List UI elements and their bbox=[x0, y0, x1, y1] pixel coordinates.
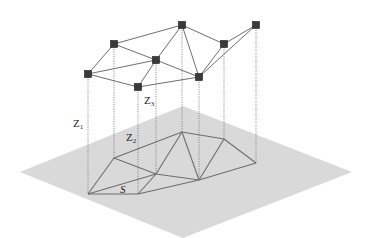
network-edge bbox=[138, 60, 156, 87]
network-edge bbox=[199, 44, 224, 77]
elevated-point-network bbox=[88, 25, 256, 87]
network-edge bbox=[114, 44, 156, 60]
sample-point-marker bbox=[179, 22, 186, 29]
label-z3-sub: 3 bbox=[151, 100, 155, 108]
label-z3: Z3 bbox=[144, 94, 155, 108]
sample-point-marker bbox=[196, 74, 203, 81]
sample-point-marker bbox=[153, 57, 160, 64]
tin-interpolation-diagram: Z1 Z2 Z3 S bbox=[0, 0, 367, 238]
network-edge bbox=[88, 74, 138, 87]
label-z1: Z1 bbox=[73, 117, 84, 131]
network-edge bbox=[199, 25, 256, 77]
sample-point-marker bbox=[221, 41, 228, 48]
label-z2-sub: 2 bbox=[133, 137, 137, 145]
network-edge bbox=[182, 25, 224, 44]
network-edge bbox=[224, 25, 256, 44]
sample-point-marker bbox=[253, 22, 260, 29]
network-edge bbox=[182, 25, 199, 77]
label-s-distance: S bbox=[120, 183, 126, 195]
ground-plane bbox=[20, 106, 352, 238]
network-edge bbox=[114, 25, 182, 44]
network-edge bbox=[156, 60, 199, 77]
network-edge bbox=[156, 25, 182, 60]
sample-point-marker bbox=[111, 41, 118, 48]
network-edge bbox=[138, 77, 199, 87]
sample-point-marker bbox=[135, 84, 142, 91]
label-z1-sub: 1 bbox=[80, 123, 84, 131]
sample-point-marker bbox=[85, 71, 92, 78]
